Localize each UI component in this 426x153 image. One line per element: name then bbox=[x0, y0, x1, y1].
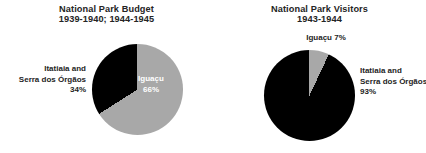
chart-subtitle-visitors: 1943-1944 bbox=[213, 14, 426, 25]
chart-subtitle-budget: 1939-1940; 1944-1945 bbox=[0, 14, 213, 25]
slice-label-value: 34% bbox=[8, 85, 86, 96]
slice-label-value: 93% bbox=[360, 87, 426, 98]
pie-slice-label-itatiaia-visitors: Itatiaia and Serra dos Órgãos 93% bbox=[360, 66, 426, 98]
pie-chart-budget bbox=[92, 44, 183, 135]
figure-canvas: National Park Budget 1939-1940; 1944-194… bbox=[0, 0, 426, 153]
slice-label-name-line2: Serra dos Órgãos bbox=[360, 77, 426, 88]
pie-slice-label-iguacu-visitors: Iguaçu 7% bbox=[295, 33, 357, 44]
chart-national-park-budget: National Park Budget 1939-1940; 1944-194… bbox=[0, 0, 213, 153]
chart-national-park-visitors: National Park Visitors 1943-1944 Iguaçu … bbox=[213, 0, 426, 153]
slice-label-name-value: Iguaçu 7% bbox=[295, 33, 357, 44]
slice-label-name-line2: Serra dos Órgãos bbox=[8, 75, 86, 86]
slice-label-name-line1: Itatiaia and bbox=[8, 64, 86, 75]
slice-label-name-line1: Itatiaia and bbox=[360, 66, 426, 77]
pie-slice-label-itatiaia-budget: Itatiaia and Serra dos Órgãos 34% bbox=[8, 64, 86, 96]
pie-chart-visitors bbox=[264, 50, 355, 141]
